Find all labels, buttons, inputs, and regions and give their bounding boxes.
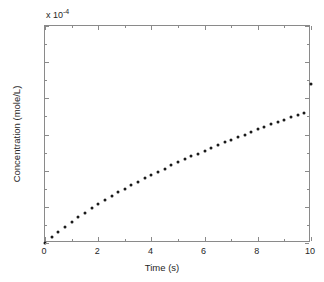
data-point — [243, 133, 246, 136]
x-tick-minor — [72, 239, 73, 241]
data-point — [150, 174, 153, 177]
y-tick-minor — [307, 153, 309, 154]
x-tick-major-top — [311, 26, 312, 30]
data-point — [163, 167, 166, 170]
x-tick-major-top — [45, 26, 46, 30]
x-tick-major — [205, 237, 206, 241]
data-point — [290, 116, 293, 119]
data-point — [97, 203, 100, 206]
data-point — [303, 111, 306, 114]
x-tick-minor — [231, 239, 232, 241]
data-point — [223, 141, 226, 144]
y-tick-major — [45, 171, 49, 172]
data-point — [276, 120, 279, 123]
data-point — [203, 149, 206, 152]
data-point — [137, 180, 140, 183]
x-tick-minor — [178, 239, 179, 241]
y-tick-minor — [45, 116, 47, 117]
y-tick-major — [45, 62, 49, 63]
x-tick-major — [98, 237, 99, 241]
x-tick-minor — [284, 26, 285, 28]
y-tick-minor — [45, 189, 47, 190]
y-tick-minor — [307, 225, 309, 226]
data-point — [70, 220, 73, 223]
x-tick-minor — [178, 26, 179, 28]
data-point — [57, 230, 60, 233]
data-point — [90, 207, 93, 210]
x-tick-minor — [72, 26, 73, 28]
data-point — [110, 195, 113, 198]
y-tick-major-right — [305, 207, 309, 208]
x-tick-major-top — [98, 26, 99, 30]
data-point — [310, 83, 313, 86]
y-tick-minor — [307, 44, 309, 45]
y-tick-major-right — [305, 135, 309, 136]
y-tick-major-right — [305, 98, 309, 99]
data-point — [103, 199, 106, 202]
x-tick-label: 8 — [254, 246, 259, 256]
y-axis-exponent-power: -4 — [63, 8, 69, 15]
y-axis-exponent-base: x 10 — [46, 10, 63, 20]
data-point — [177, 161, 180, 164]
data-layer — [45, 26, 309, 241]
x-tick-major — [311, 237, 312, 241]
data-point — [170, 164, 173, 167]
y-tick-minor — [307, 189, 309, 190]
y-tick-minor — [45, 225, 47, 226]
x-tick-major-top — [258, 26, 259, 30]
y-tick-minor — [307, 80, 309, 81]
data-point — [256, 128, 259, 131]
data-point — [190, 155, 193, 158]
data-point — [183, 158, 186, 161]
x-tick-minor — [284, 239, 285, 241]
data-point — [196, 152, 199, 155]
data-point — [270, 123, 273, 126]
data-point — [250, 130, 253, 133]
data-point — [77, 216, 80, 219]
y-tick-minor — [307, 116, 309, 117]
data-point — [236, 136, 239, 139]
data-point — [210, 146, 213, 149]
y-tick-minor — [45, 80, 47, 81]
data-point — [263, 125, 266, 128]
x-tick-major-top — [205, 26, 206, 30]
data-point — [63, 225, 66, 228]
x-tick-major-top — [151, 26, 152, 30]
x-tick-minor — [125, 239, 126, 241]
y-tick-minor — [45, 44, 47, 45]
plot-area — [44, 25, 310, 242]
y-tick-major-right — [305, 26, 309, 27]
y-tick-minor — [45, 153, 47, 154]
y-tick-major — [45, 135, 49, 136]
y-tick-major — [45, 98, 49, 99]
data-point — [296, 113, 299, 116]
y-tick-major — [45, 207, 49, 208]
x-axis-title: Time (s) — [0, 262, 324, 273]
data-point — [216, 144, 219, 147]
y-tick-major-right — [305, 171, 309, 172]
data-point — [50, 236, 53, 239]
y-axis-exponent-label: x 10-4 — [46, 8, 69, 20]
data-point — [130, 184, 133, 187]
x-tick-label: 10 — [305, 246, 315, 256]
data-point — [283, 118, 286, 121]
y-axis-title: Concentration (mole/L) — [8, 25, 24, 242]
x-tick-minor — [125, 26, 126, 28]
y-tick-major — [45, 243, 49, 244]
data-point — [117, 191, 120, 194]
figure: x 10-4 Concentration (mole/L) Time (s) 0… — [0, 0, 324, 282]
x-tick-label: 6 — [201, 246, 206, 256]
data-point — [230, 138, 233, 141]
x-tick-label: 2 — [95, 246, 100, 256]
x-tick-major — [45, 237, 46, 241]
y-axis-title-text: Concentration (mole/L) — [11, 85, 22, 182]
x-tick-major — [258, 237, 259, 241]
y-tick-major-right — [305, 243, 309, 244]
data-point — [157, 170, 160, 173]
data-point — [83, 211, 86, 214]
x-tick-label: 0 — [41, 246, 46, 256]
y-tick-major-right — [305, 62, 309, 63]
data-point — [123, 187, 126, 190]
x-tick-label: 4 — [148, 246, 153, 256]
x-tick-minor — [231, 26, 232, 28]
